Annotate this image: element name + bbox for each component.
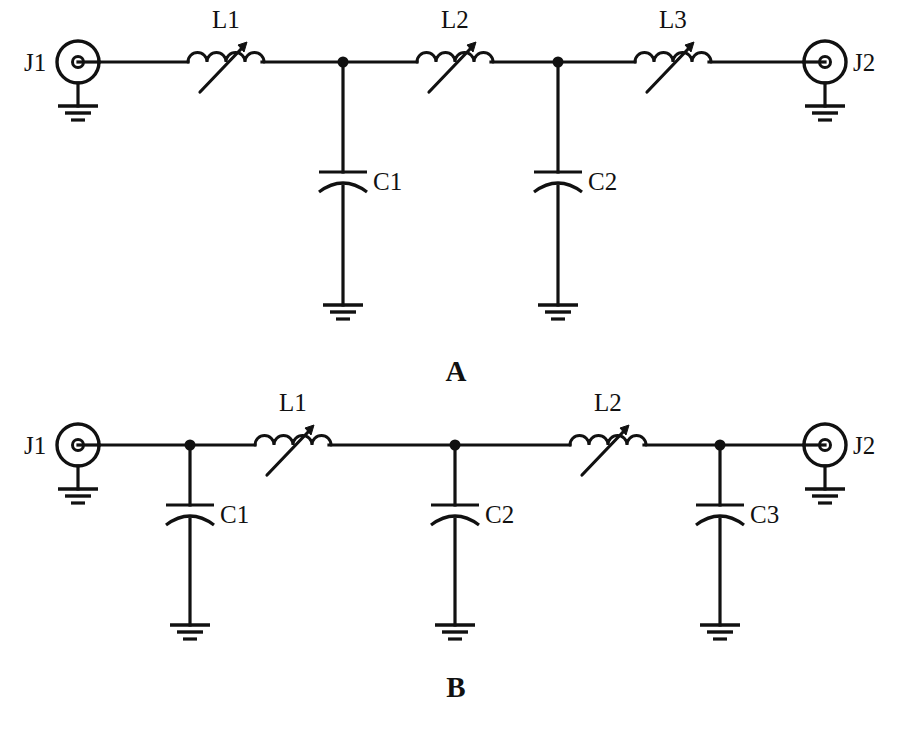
- panel-b: L1 L2 C1: [24, 389, 875, 703]
- shunt-branch-c2-a[interactable]: C2: [534, 57, 617, 320]
- variable-inductor-icon: [255, 436, 331, 446]
- capacitor-label-c2: C2: [588, 168, 617, 195]
- inductor-label-l2: L2: [594, 389, 622, 416]
- inductor-l1-b[interactable]: L1: [255, 389, 331, 475]
- panel-caption-b: B: [446, 671, 465, 703]
- panel-a: L1 L2 L3 C1: [24, 6, 875, 387]
- ground-icon: [58, 106, 98, 120]
- connector-label-j1: J1: [24, 49, 46, 76]
- inductor-label-l3: L3: [659, 6, 687, 33]
- inductor-l2-a[interactable]: L2: [417, 6, 493, 92]
- capacitor-label-c3: C3: [750, 501, 779, 528]
- inductor-l1-a[interactable]: L1: [188, 6, 264, 92]
- inductor-l3-a[interactable]: L3: [635, 6, 711, 92]
- connector-j2-b[interactable]: [804, 424, 846, 503]
- connector-j1-a[interactable]: [57, 41, 99, 120]
- connector-label-j1: J1: [24, 432, 46, 459]
- ground-icon: [538, 305, 578, 319]
- ground-icon: [58, 489, 98, 503]
- panel-caption-a: A: [446, 355, 467, 387]
- variable-inductor-icon: [417, 53, 493, 63]
- ground-icon: [435, 625, 475, 639]
- ground-icon: [170, 625, 210, 639]
- shunt-branch-c1-b[interactable]: C1: [166, 440, 249, 640]
- connector-label-j2: J2: [853, 49, 875, 76]
- ground-icon: [700, 625, 740, 639]
- inductor-l2-b[interactable]: L2: [570, 389, 646, 475]
- shunt-branch-c1-a[interactable]: C1: [319, 57, 402, 320]
- connector-j1-b[interactable]: [57, 424, 99, 503]
- shunt-branch-c2-b[interactable]: C2: [431, 440, 514, 640]
- variable-inductor-icon: [188, 53, 264, 63]
- variable-inductor-icon: [635, 53, 711, 63]
- capacitor-label-c1: C1: [373, 168, 402, 195]
- ground-icon: [805, 489, 845, 503]
- inductor-label-l1: L1: [212, 6, 240, 33]
- capacitor-label-c1: C1: [220, 501, 249, 528]
- ground-icon: [323, 305, 363, 319]
- inductor-label-l1: L1: [279, 389, 307, 416]
- connector-j2-a[interactable]: [804, 41, 846, 120]
- inductor-label-l2: L2: [441, 6, 469, 33]
- capacitor-label-c2: C2: [485, 501, 514, 528]
- shunt-branch-c3-b[interactable]: C3: [696, 440, 779, 640]
- variable-inductor-icon: [570, 436, 646, 446]
- ground-icon: [805, 106, 845, 120]
- connector-label-j2: J2: [853, 432, 875, 459]
- schematic-canvas: L1 L2 L3 C1: [0, 0, 919, 731]
